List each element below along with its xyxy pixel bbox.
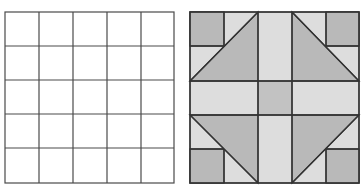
figure-canvas bbox=[0, 0, 363, 190]
corner-square-tl bbox=[190, 12, 224, 46]
corner-square-tr bbox=[326, 12, 359, 46]
quilt-block bbox=[190, 12, 359, 183]
empty-grid bbox=[5, 12, 174, 183]
center-square bbox=[258, 81, 292, 115]
corner-square-bl bbox=[190, 149, 224, 183]
corner-square-br bbox=[326, 149, 359, 183]
